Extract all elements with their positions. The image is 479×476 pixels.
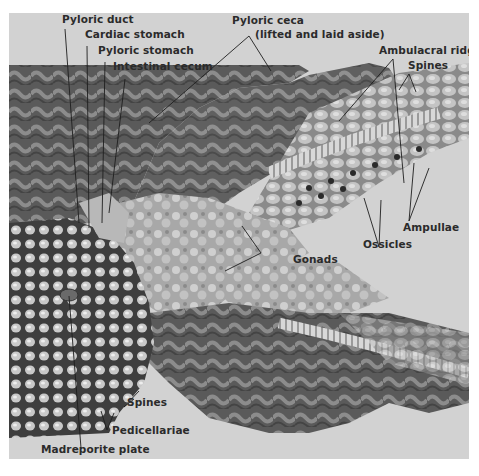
label-pyloric-stomach: Pyloric stomach	[98, 44, 194, 56]
label-ampullae: Ampullae	[403, 221, 459, 233]
label-gonads: Gonads	[293, 253, 338, 265]
label-pyloric-ceca: Pyloric ceca	[232, 14, 304, 26]
label-ambulacral-ridge: Ambulacral ridge	[379, 44, 469, 56]
label-spines-bottom: Spines	[127, 396, 167, 408]
label-pedicellariae: Pedicellariae	[112, 424, 190, 436]
starfish-dissection-photo: Pyloric duct Cardiac stomach Pyloric sto…	[9, 13, 469, 459]
label-intestinal-cecum: Intestinal cecum	[113, 60, 213, 72]
label-pyloric-ceca-note: (lifted and laid aside)	[255, 28, 385, 40]
label-spines-top: Spines	[408, 59, 448, 71]
label-pyloric-duct: Pyloric duct	[62, 13, 134, 25]
specimen-illustration	[9, 13, 469, 459]
label-madreporite-plate: Madreporite plate	[41, 443, 150, 455]
label-ossicles: Ossicles	[363, 238, 412, 250]
label-cardiac-stomach: Cardiac stomach	[85, 28, 185, 40]
